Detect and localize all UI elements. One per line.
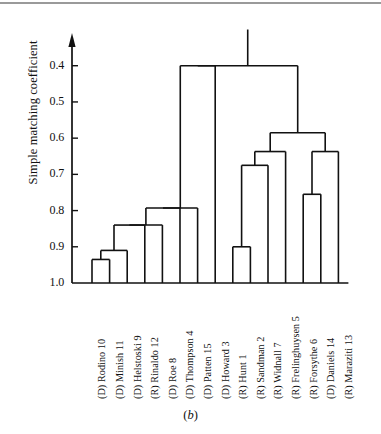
leaf-label: (R) Widnall 7 — [272, 342, 283, 399]
leaf-label: (D) Patten 15 — [202, 343, 213, 399]
leaf-label: (R) Hunt 1 — [237, 354, 248, 399]
figure-container: Simple matching coefficient 0.40.50.60.7… — [0, 0, 381, 434]
y-tick-label: 0.5 — [34, 94, 64, 109]
y-tick-label: 0.6 — [34, 130, 64, 145]
leaf-label: (D) Howard 3 — [220, 341, 231, 399]
leaf-label: (D) Thompson 4 — [184, 331, 195, 399]
y-tick-label: 1.0 — [34, 275, 64, 290]
leaf-label: (D) Minish 11 — [114, 340, 125, 399]
leaf-label: (D) Helstoski 9 — [132, 335, 143, 399]
y-tick-label: 0.7 — [34, 166, 64, 181]
leaf-label: (R) Maraziti 13 — [343, 335, 354, 399]
leaf-label: (D) Rodino 10 — [96, 339, 107, 399]
leaf-label: (R) Sandman 2 — [255, 337, 266, 399]
leaf-label: (D) Daniels 14 — [325, 338, 336, 399]
y-axis-arrowhead — [68, 33, 75, 47]
caption-close-paren: ) — [194, 408, 198, 422]
y-tick-label: 0.9 — [34, 239, 64, 254]
leaf-label: (R) Rinaldo 12 — [149, 337, 160, 399]
leaf-label: (D) Roe 8 — [167, 358, 178, 399]
y-tick-label: 0.8 — [34, 203, 64, 218]
y-tick-label: 0.4 — [34, 58, 64, 73]
leaf-label: (R) Forsythe 6 — [308, 339, 319, 399]
figure-caption: (b) — [0, 408, 381, 423]
leaf-label: (R) Frelinghuysen 5 — [290, 316, 301, 399]
